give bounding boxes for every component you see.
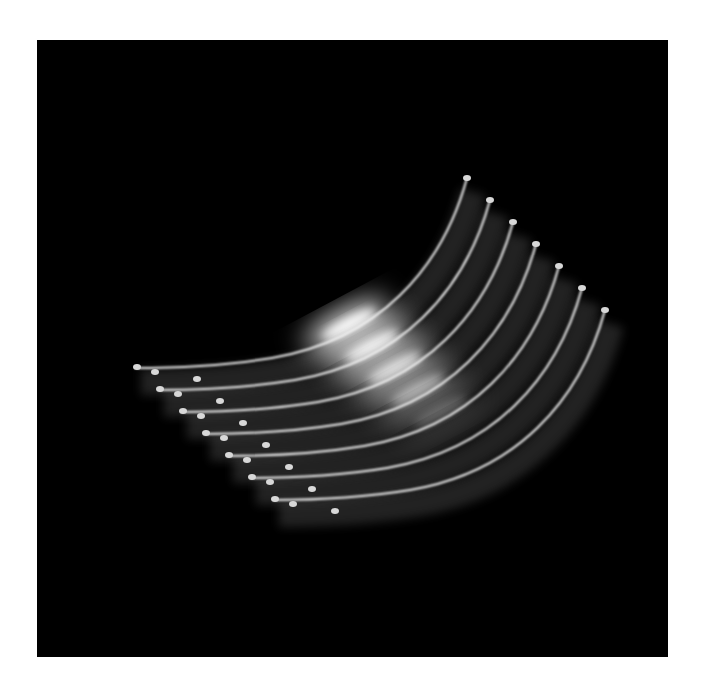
prominence	[202, 430, 210, 436]
prominence	[243, 457, 251, 463]
prominence	[248, 474, 256, 480]
prominence	[239, 420, 247, 426]
prominence	[486, 197, 494, 203]
prominence	[151, 369, 159, 375]
prominence	[197, 413, 205, 419]
prominence	[156, 386, 164, 392]
prominence	[220, 435, 228, 441]
prominence	[174, 391, 182, 397]
prominence	[266, 479, 274, 485]
prominence	[289, 501, 297, 507]
prominence	[285, 464, 293, 470]
prominence	[308, 486, 316, 492]
prominence	[578, 285, 586, 291]
prominence	[509, 219, 517, 225]
prominence	[262, 442, 270, 448]
prominence	[331, 508, 339, 514]
eclipse-photo	[37, 40, 668, 657]
prominence	[555, 263, 563, 269]
prominence	[216, 398, 224, 404]
prominence	[463, 175, 471, 181]
eclipse-arcs	[37, 40, 668, 657]
prominence	[271, 496, 279, 502]
prominence	[601, 307, 609, 313]
prominence	[532, 241, 540, 247]
prominence	[179, 408, 187, 414]
prominence	[133, 364, 141, 370]
prominence	[193, 376, 201, 382]
prominence	[225, 452, 233, 458]
